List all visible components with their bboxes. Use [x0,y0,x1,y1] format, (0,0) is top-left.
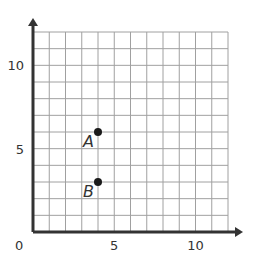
point-label-b: B [83,182,94,201]
point-label-a: A [82,132,94,151]
point-b [94,178,102,186]
tick-labels: 0510510 [7,58,203,253]
y-tick-label: 10 [7,58,24,73]
grid-lines [33,32,228,232]
y-axis-arrow-icon [28,18,38,26]
coordinate-plane: 0510510 AB [0,0,256,268]
origin-label: 0 [15,238,23,253]
data-points: AB [82,128,102,201]
x-tick-label: 5 [110,238,118,253]
x-tick-label: 10 [187,238,204,253]
y-tick-label: 5 [16,142,24,157]
x-axis-arrow-icon [235,227,243,237]
point-a [94,128,102,136]
axes [28,18,243,237]
